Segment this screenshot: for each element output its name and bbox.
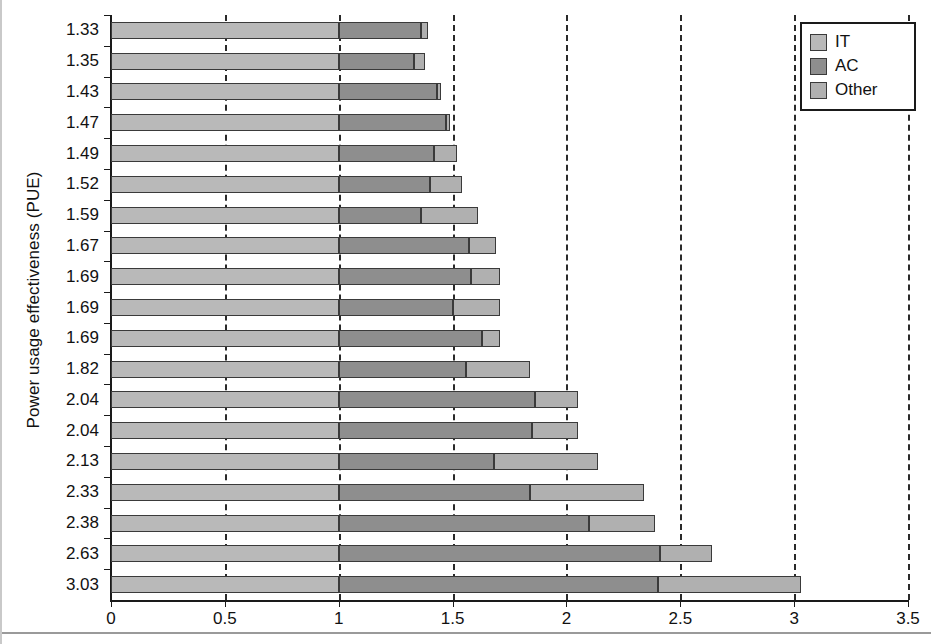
bar-segment-it[interactable] [111,422,339,439]
x-tick [339,600,340,607]
y-tick [104,261,111,262]
bar-row[interactable] [111,576,908,593]
bar-segment-ac[interactable] [339,237,469,254]
y-tick [104,384,111,385]
bar-segment-other[interactable] [660,545,712,562]
bar-row[interactable] [111,114,908,131]
bar-segment-ac[interactable] [339,145,435,162]
bar-segment-ac[interactable] [339,83,437,100]
bar-segment-it[interactable] [111,515,339,532]
y-tick-label: 2.33 [66,482,99,502]
bar-segment-ac[interactable] [339,391,535,408]
bar-segment-other[interactable] [446,114,451,131]
bar-segment-ac[interactable] [339,515,589,532]
bar-row[interactable] [111,299,908,316]
x-tick-label: 2 [562,609,571,629]
bar-segment-it[interactable] [111,114,339,131]
bar-segment-other[interactable] [530,484,644,501]
bar-segment-it[interactable] [111,330,339,347]
bar-row[interactable] [111,83,908,100]
bar-row[interactable] [111,330,908,347]
bar-segment-ac[interactable] [339,422,533,439]
bar-segment-it[interactable] [111,484,339,501]
bar-segment-ac[interactable] [339,576,658,593]
y-tick-label: 1.69 [66,267,99,287]
y-tick [104,508,111,509]
bar-segment-other[interactable] [471,268,501,285]
bar-segment-it[interactable] [111,207,339,224]
bar-segment-it[interactable] [111,268,339,285]
bar-row[interactable] [111,361,908,378]
bar-segment-other[interactable] [430,176,462,193]
legend-item-it[interactable]: IT [810,30,906,54]
y-tick [104,169,111,170]
y-tick [104,292,111,293]
bar-row[interactable] [111,515,908,532]
bar-segment-other[interactable] [466,361,530,378]
bar-segment-it[interactable] [111,545,339,562]
bar-segment-other[interactable] [421,22,428,39]
y-tick [104,354,111,355]
legend-label-other: Other [835,80,878,100]
bar-segment-ac[interactable] [339,330,482,347]
bar-row[interactable] [111,545,908,562]
scan-edge-bottom [0,632,931,634]
x-tick-label: 0 [106,609,115,629]
bar-row[interactable] [111,453,908,470]
bar-segment-it[interactable] [111,237,339,254]
bar-segment-it[interactable] [111,53,339,70]
bar-segment-ac[interactable] [339,207,421,224]
bar-segment-it[interactable] [111,576,339,593]
bar-segment-other[interactable] [482,330,500,347]
bar-segment-other[interactable] [434,145,457,162]
x-tick-label: 1.5 [441,609,465,629]
bar-segment-other[interactable] [437,83,442,100]
bar-row[interactable] [111,422,908,439]
x-axis-line [110,600,909,602]
bar-row[interactable] [111,268,908,285]
bar-segment-ac[interactable] [339,545,660,562]
bar-segment-other[interactable] [494,453,599,470]
bar-segment-it[interactable] [111,453,339,470]
bar-row[interactable] [111,176,908,193]
bar-segment-other[interactable] [535,391,578,408]
bar-row[interactable] [111,53,908,70]
bar-segment-it[interactable] [111,145,339,162]
bar-segment-ac[interactable] [339,114,446,131]
bar-segment-ac[interactable] [339,176,430,193]
legend-item-other[interactable]: Other [810,78,906,102]
bar-segment-other[interactable] [532,422,578,439]
bar-segment-other[interactable] [453,299,501,316]
bar-segment-other[interactable] [421,207,478,224]
y-tick-label: 1.69 [66,328,99,348]
legend-item-ac[interactable]: AC [810,54,906,78]
bar-row[interactable] [111,484,908,501]
bar-segment-other[interactable] [414,53,425,70]
x-tick-label: 3 [789,609,798,629]
bar-segment-it[interactable] [111,22,339,39]
bar-row[interactable] [111,22,908,39]
bar-segment-ac[interactable] [339,22,421,39]
bar-segment-it[interactable] [111,361,339,378]
bar-segment-it[interactable] [111,299,339,316]
bar-segment-it[interactable] [111,391,339,408]
bar-row[interactable] [111,145,908,162]
bar-segment-it[interactable] [111,176,339,193]
bar-segment-other[interactable] [589,515,655,532]
bar-row[interactable] [111,207,908,224]
bar-segment-ac[interactable] [339,453,494,470]
y-tick [104,77,111,78]
bar-row[interactable] [111,237,908,254]
y-tick [104,569,111,570]
bar-segment-ac[interactable] [339,299,453,316]
bar-row[interactable] [111,391,908,408]
bar-segment-other[interactable] [469,237,496,254]
chart-figure: Power usage effectiveness (PUE) 00.511.5… [0,0,931,644]
y-tick [104,107,111,108]
bar-segment-it[interactable] [111,83,339,100]
bar-segment-other[interactable] [658,576,801,593]
bar-segment-ac[interactable] [339,484,530,501]
bar-segment-ac[interactable] [339,53,414,70]
bar-segment-ac[interactable] [339,361,467,378]
bar-segment-ac[interactable] [339,268,471,285]
